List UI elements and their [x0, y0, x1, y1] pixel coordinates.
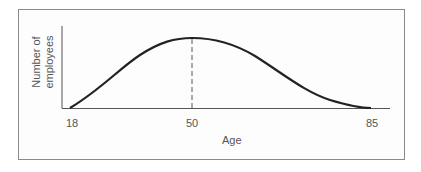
- y-axis-label-line-1: Number of: [30, 35, 43, 88]
- y-axis-label-line-2: employees: [43, 35, 56, 88]
- employee-distribution-curve: [70, 38, 371, 108]
- x-tick-18: 18: [66, 117, 78, 129]
- x-axis-label: Age: [222, 134, 242, 146]
- x-tick-50: 50: [186, 117, 198, 129]
- x-tick-85: 85: [366, 117, 378, 129]
- y-axis-label: Number of employees: [30, 35, 56, 88]
- plot-area: [0, 0, 421, 172]
